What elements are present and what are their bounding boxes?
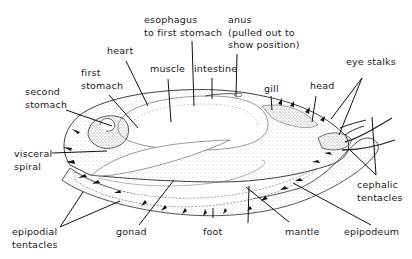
label-heart: heart: [107, 45, 133, 58]
label-epipodeum: epipodeum: [344, 226, 399, 239]
label-esophagus: esophagus to first stomach: [144, 14, 222, 39]
label-head: head: [310, 80, 335, 93]
label-cephalic-tentacles: cephalic tentacles: [357, 179, 403, 204]
label-second-stomach: second stomach: [25, 86, 67, 111]
label-gonad: gonad: [116, 226, 147, 239]
label-visceral-spiral: visceral spiral: [14, 148, 52, 173]
label-epipodial-tentacles: epipodial tentacles: [12, 226, 58, 251]
label-eye-stalks: eye stalks: [346, 56, 396, 69]
label-anus: anus (pulled out to show position): [228, 14, 300, 52]
label-muscle: muscle: [150, 63, 185, 76]
label-intestine: intestine: [194, 63, 237, 76]
label-mantle: mantle: [285, 226, 320, 239]
label-gill: gill: [264, 83, 279, 96]
label-foot: foot: [203, 226, 223, 239]
label-first-stomach: first stomach: [81, 67, 123, 92]
